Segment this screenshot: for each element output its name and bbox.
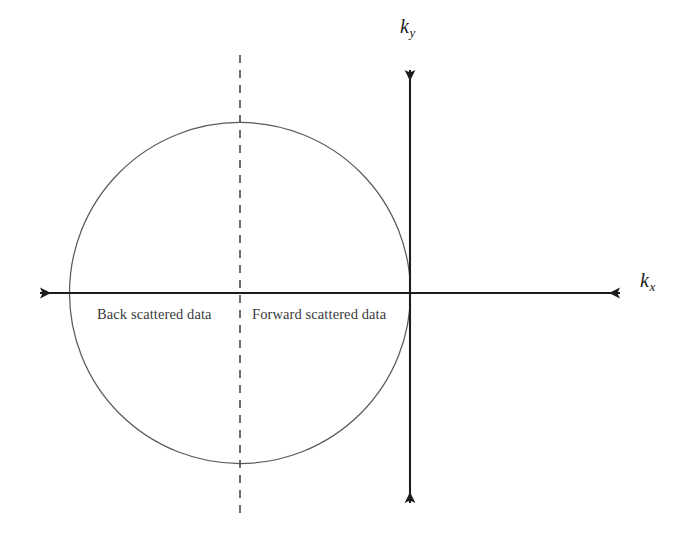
k-space-diagram-canvas [0, 0, 687, 539]
back-scattered-data-label: Back scattered data [97, 307, 212, 322]
ky-axis-label-base: k [400, 15, 409, 37]
kx-axis-label-subscript: x [649, 279, 655, 294]
ky-axis-label-subscript: y [409, 25, 415, 40]
kx-axis-label: kx [640, 270, 655, 293]
kx-axis-label-base: k [640, 269, 649, 291]
ky-axis-label: ky [400, 16, 415, 39]
forward-scattered-data-label: Forward scattered data [252, 307, 386, 322]
figure-root: ky kx Back scattered data Forward scatte… [0, 0, 687, 539]
